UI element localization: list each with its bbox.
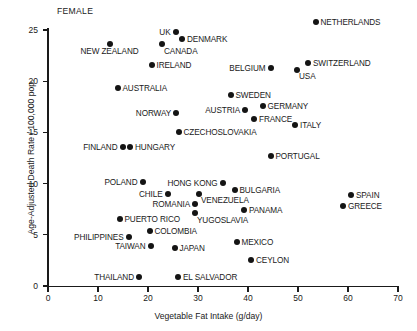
- data-point: [192, 201, 198, 207]
- data-point-label: FRANCE: [259, 115, 292, 124]
- data-point-label: PHILIPPINES: [74, 232, 123, 241]
- data-point: [292, 122, 298, 128]
- data-point: [117, 216, 123, 222]
- x-tick: [97, 287, 98, 292]
- data-point-label: BULGARIA: [240, 185, 281, 194]
- x-tick: [297, 287, 298, 292]
- data-point-label: SWITZERLAND: [313, 58, 371, 67]
- x-tick-label: 0: [33, 293, 63, 303]
- data-point-label: CHILE: [139, 189, 163, 198]
- data-point: [175, 274, 181, 280]
- y-axis-line: [47, 28, 49, 287]
- data-point-label: PANAMA: [249, 206, 282, 215]
- x-tick: [147, 287, 148, 292]
- x-tick: [197, 287, 198, 292]
- data-point: [126, 234, 132, 240]
- data-point: [340, 203, 346, 209]
- data-point-label: AUSTRIA: [205, 105, 240, 114]
- panel-label-female: FEMALE: [57, 6, 93, 16]
- data-point-label: GREECE: [348, 202, 382, 211]
- data-point: [172, 245, 178, 251]
- x-tick-label: 70: [383, 293, 413, 303]
- data-point: [136, 274, 142, 280]
- data-point-label: GERMANY: [268, 101, 309, 110]
- data-point-label: THAILAND: [94, 272, 134, 281]
- data-point-label: TAIWAN: [115, 242, 145, 251]
- data-point: [241, 207, 247, 213]
- data-point-label: BELGIUM: [229, 63, 265, 72]
- y-axis-title: Age-Adjusted Death Rate / 100,000 pop.: [26, 57, 36, 257]
- x-tick: [397, 287, 398, 292]
- data-point-label: NETHERLANDS: [321, 17, 381, 26]
- x-tick-label: 50: [283, 293, 313, 303]
- x-tick-label: 20: [133, 293, 163, 303]
- data-point: [173, 29, 179, 35]
- x-tick-label: 60: [333, 293, 363, 303]
- data-point: [176, 129, 182, 135]
- data-point: [179, 36, 185, 42]
- data-point: [348, 192, 354, 198]
- data-point-label: VENEZUELA: [201, 196, 249, 205]
- data-point: [115, 85, 121, 91]
- data-point-label: UK: [159, 28, 170, 37]
- data-point-label: NEW ZEALAND: [80, 47, 138, 56]
- y-tick: [43, 132, 48, 133]
- data-point: [220, 180, 226, 186]
- data-point-label: AUSTRALIA: [123, 84, 168, 93]
- data-point: [313, 19, 319, 25]
- data-point-label: DENMARK: [187, 35, 227, 44]
- data-point: [268, 65, 274, 71]
- data-point-label: SPAIN: [356, 190, 379, 199]
- x-tick: [47, 287, 48, 292]
- x-tick-label: 10: [83, 293, 113, 303]
- data-point: [149, 62, 155, 68]
- data-point: [268, 153, 274, 159]
- data-point-label: YUGOSLAVIA: [197, 216, 248, 225]
- x-tick-label: 30: [183, 293, 213, 303]
- y-tick: [43, 81, 48, 82]
- data-point: [248, 257, 254, 263]
- data-point: [165, 191, 171, 197]
- data-point: [260, 103, 266, 109]
- data-point: [120, 144, 126, 150]
- data-point-label: PUERTO RICO: [125, 215, 180, 224]
- scatter-plot-figure: FEMALE 0510152025 010203040506070 NETHER…: [0, 0, 417, 331]
- x-tick-label: 40: [233, 293, 263, 303]
- data-point: [251, 116, 257, 122]
- data-point-label: FINLAND: [83, 142, 117, 151]
- data-point-label: CEYLON: [256, 256, 289, 265]
- data-point-label: ROMANIA: [152, 200, 190, 209]
- data-point-label: HUNGARY: [135, 142, 175, 151]
- x-tick: [347, 287, 348, 292]
- data-point-label: COLOMBIA: [155, 226, 197, 235]
- x-tick: [247, 287, 248, 292]
- data-point: [232, 187, 238, 193]
- data-point-label: USA: [299, 72, 316, 81]
- data-point-label: POLAND: [104, 177, 137, 186]
- data-point-label: SWEDEN: [236, 90, 271, 99]
- data-point: [140, 179, 146, 185]
- y-tick-label: 25: [16, 25, 38, 35]
- data-point: [305, 60, 311, 66]
- data-point-label: IRELAND: [157, 60, 192, 69]
- y-tick: [43, 29, 48, 30]
- data-point-label: MEXICO: [242, 237, 274, 246]
- data-point-label: EL SALVADOR: [183, 272, 237, 281]
- data-point-label: JAPAN: [180, 244, 205, 253]
- x-axis-line: [47, 286, 399, 288]
- y-tick: [43, 234, 48, 235]
- data-point-label: PORTUGAL: [276, 151, 320, 160]
- data-point-label: NORWAY: [136, 108, 171, 117]
- data-point: [148, 243, 154, 249]
- x-axis-title: Vegetable Fat Intake (g/day): [0, 311, 417, 321]
- data-point-label: CZECHOSLOVAKIA: [184, 128, 257, 137]
- data-point-label: ITALY: [300, 121, 321, 130]
- data-point: [228, 92, 234, 98]
- data-point: [173, 110, 179, 116]
- data-point: [242, 107, 248, 113]
- data-point: [234, 239, 240, 245]
- y-tick-label: 0: [16, 281, 38, 291]
- data-point: [147, 228, 153, 234]
- data-point-label: HONG KONG: [167, 178, 217, 187]
- data-point: [127, 144, 133, 150]
